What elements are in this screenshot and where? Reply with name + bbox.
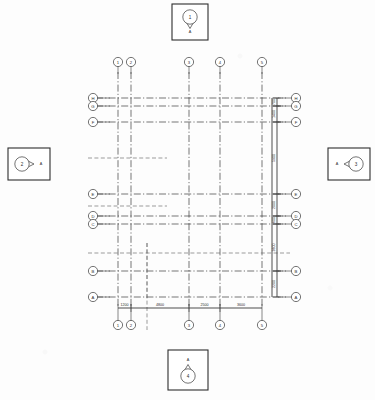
- grid-bubble-label: C: [294, 222, 297, 227]
- row-bubble-left-G[interactable]: G: [88, 101, 110, 110]
- structural-plan-canvas[interactable]: .cl { stroke:#3a3a3a; stroke-width:0.7; …: [0, 0, 375, 400]
- col-bubble-top-1[interactable]: 1: [113, 57, 122, 74]
- dimension-value: 3600: [237, 303, 245, 307]
- dimension-value: 5900: [272, 154, 276, 162]
- row-bubble-right-A[interactable]: A: [278, 292, 301, 301]
- section-bubble-label: 1: [189, 15, 192, 20]
- section-sheet-label: A: [40, 162, 43, 166]
- section-bubble-label: 2: [21, 162, 24, 167]
- col-bubble-bottom-5[interactable]: 5: [257, 312, 266, 330]
- marker-bottom[interactable]: 4A: [168, 350, 208, 390]
- grid-bubble-label: F: [92, 120, 95, 125]
- marker-left[interactable]: 2A: [8, 148, 50, 180]
- grid-bubble-label: D: [294, 214, 297, 219]
- grid-bubble-label: C: [91, 222, 94, 227]
- column-bubbles-top[interactable]: 12345: [113, 57, 266, 74]
- col-bubble-bottom-3[interactable]: 3: [184, 312, 193, 330]
- grid-bubble-label: G: [294, 104, 297, 109]
- grid-bubble-label: D: [91, 214, 94, 219]
- section-sheet-label: A: [189, 30, 192, 34]
- dimension-value: 2000: [272, 201, 276, 209]
- row-bubbles-left[interactable]: HGFEDCBA: [88, 93, 110, 301]
- column-gridline-group: [118, 72, 262, 308]
- col-bubble-bottom-4[interactable]: 4: [215, 312, 224, 330]
- section-sheet-label: A: [187, 358, 190, 362]
- col-bubble-top-4[interactable]: 4: [215, 57, 224, 74]
- marker-right[interactable]: 3A: [328, 148, 370, 180]
- row-bubble-left-E[interactable]: E: [88, 189, 110, 198]
- col-bubble-top-5[interactable]: 5: [257, 57, 266, 74]
- section-bubble-label: 4: [187, 374, 190, 379]
- row-bubble-left-C[interactable]: C: [88, 219, 110, 228]
- column-bubbles-bottom[interactable]: 12345: [113, 312, 266, 330]
- grid-bubble-label: B: [295, 269, 298, 274]
- row-bubble-right-E[interactable]: E: [278, 189, 301, 198]
- grid-bubble-label: F: [295, 120, 298, 125]
- grid-bubble-label: B: [92, 269, 95, 274]
- drawing-sheet: .cl { stroke:#3a3a3a; stroke-width:0.7; …: [0, 0, 375, 400]
- grid-bubble-label: A: [295, 295, 298, 300]
- row-bubble-left-A[interactable]: A: [88, 292, 110, 301]
- section-sheet-label: A: [336, 162, 339, 166]
- grid-bubble-label: H: [294, 96, 297, 101]
- row-bubble-right-F[interactable]: F: [278, 117, 301, 126]
- row-bubble-right-C[interactable]: C: [278, 219, 301, 228]
- row-gridline-group: [96, 98, 286, 297]
- dimension-value: 4800: [156, 303, 164, 307]
- dimension-value: 2200: [272, 280, 276, 288]
- dimension-value: 700: [272, 99, 276, 105]
- row-bubble-left-D[interactable]: D: [88, 211, 110, 220]
- grid-bubble-label: H: [91, 96, 94, 101]
- dimension-value: 1400: [272, 110, 276, 118]
- grid-bubble-label: G: [91, 104, 94, 109]
- col-bubble-top-2[interactable]: 2: [126, 57, 135, 74]
- row-bubble-left-F[interactable]: F: [88, 117, 110, 126]
- row-bubble-right-B[interactable]: B: [278, 266, 301, 275]
- grid-bubble-label: E: [295, 192, 298, 197]
- vertical-dimension-string: 70014005900200060036002200: [272, 98, 281, 297]
- marker-top[interactable]: 1A: [172, 4, 208, 40]
- dimension-value: 2500: [201, 303, 209, 307]
- dimension-value: 600: [272, 217, 276, 223]
- row-bubble-left-B[interactable]: B: [88, 266, 110, 275]
- dimension-value: 1200: [121, 303, 129, 307]
- col-bubble-top-3[interactable]: 3: [184, 57, 193, 74]
- row-bubble-right-G[interactable]: G: [278, 101, 301, 110]
- col-bubble-bottom-2[interactable]: 2: [126, 312, 135, 330]
- col-bubble-bottom-1[interactable]: 1: [113, 312, 122, 330]
- row-bubble-left-H[interactable]: H: [88, 93, 110, 102]
- grid-bubble-label: A: [92, 295, 95, 300]
- section-bubble-label: 3: [355, 162, 358, 167]
- grid-bubble-label: E: [92, 192, 95, 197]
- dimension-value: 3600: [272, 244, 276, 252]
- row-bubbles-right[interactable]: HGFEDCBA: [278, 93, 301, 301]
- horizontal-dimension-string: 1200480025003600: [118, 303, 262, 312]
